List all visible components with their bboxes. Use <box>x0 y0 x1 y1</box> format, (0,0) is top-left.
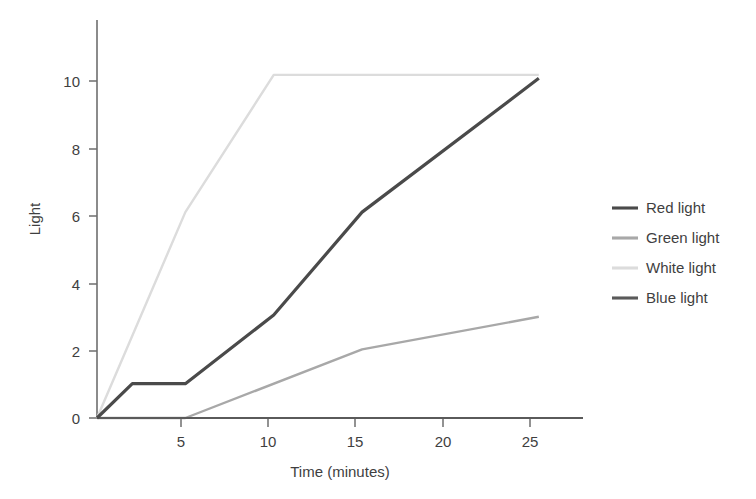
y-tick-label-0: 0 <box>72 410 80 427</box>
x-axis-title: Time (minutes) <box>290 463 389 480</box>
legend-label-green-light: Green light <box>646 229 720 246</box>
legend-label-white-light: White light <box>646 259 717 276</box>
x-tick-label-25: 25 <box>522 433 539 450</box>
y-tick-label-8: 8 <box>72 141 80 158</box>
y-axis-tick-labels: 0 2 4 6 8 10 <box>63 73 80 427</box>
legend-label-blue-light: Blue light <box>646 289 709 306</box>
x-tick-label-5: 5 <box>177 433 185 450</box>
y-tick-label-4: 4 <box>72 276 80 293</box>
series-line-green-light <box>97 317 539 418</box>
y-axis-title: Light <box>26 202 43 235</box>
x-tick-label-10: 10 <box>260 433 277 450</box>
y-axis-ticks <box>89 81 97 418</box>
y-tick-label-2: 2 <box>72 343 80 360</box>
chart-figure: 0 2 4 6 8 10 5 10 15 20 25 Time (minutes… <box>0 0 756 499</box>
x-tick-label-15: 15 <box>347 433 364 450</box>
y-tick-label-6: 6 <box>72 208 80 225</box>
series-group <box>97 75 583 418</box>
x-axis-ticks <box>181 418 530 427</box>
x-tick-label-20: 20 <box>435 433 452 450</box>
line-chart: 0 2 4 6 8 10 5 10 15 20 25 Time (minutes… <box>0 0 756 499</box>
x-axis-tick-labels: 5 10 15 20 25 <box>177 433 539 450</box>
chart-legend: Red lightGreen lightWhite lightBlue ligh… <box>612 199 720 306</box>
legend-label-red-light: Red light <box>646 199 706 216</box>
y-tick-label-10: 10 <box>63 73 80 90</box>
